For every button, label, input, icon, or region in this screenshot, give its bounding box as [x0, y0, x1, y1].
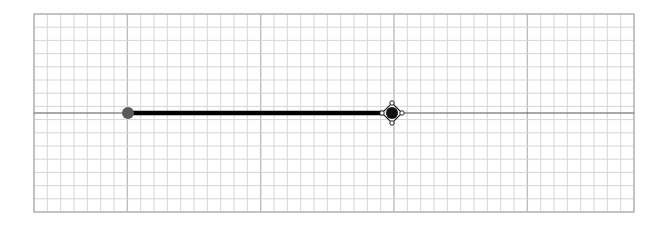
handle-knob-icon [390, 121, 394, 125]
handle-knob-icon [390, 101, 394, 105]
end-point-drag-handle[interactable] [380, 101, 404, 125]
handle-knob-icon [400, 111, 404, 115]
number-line-graph [0, 0, 664, 225]
start-point-closed-dot[interactable] [122, 107, 134, 119]
end-point-dot [386, 107, 398, 119]
handle-knob-icon [380, 111, 384, 115]
